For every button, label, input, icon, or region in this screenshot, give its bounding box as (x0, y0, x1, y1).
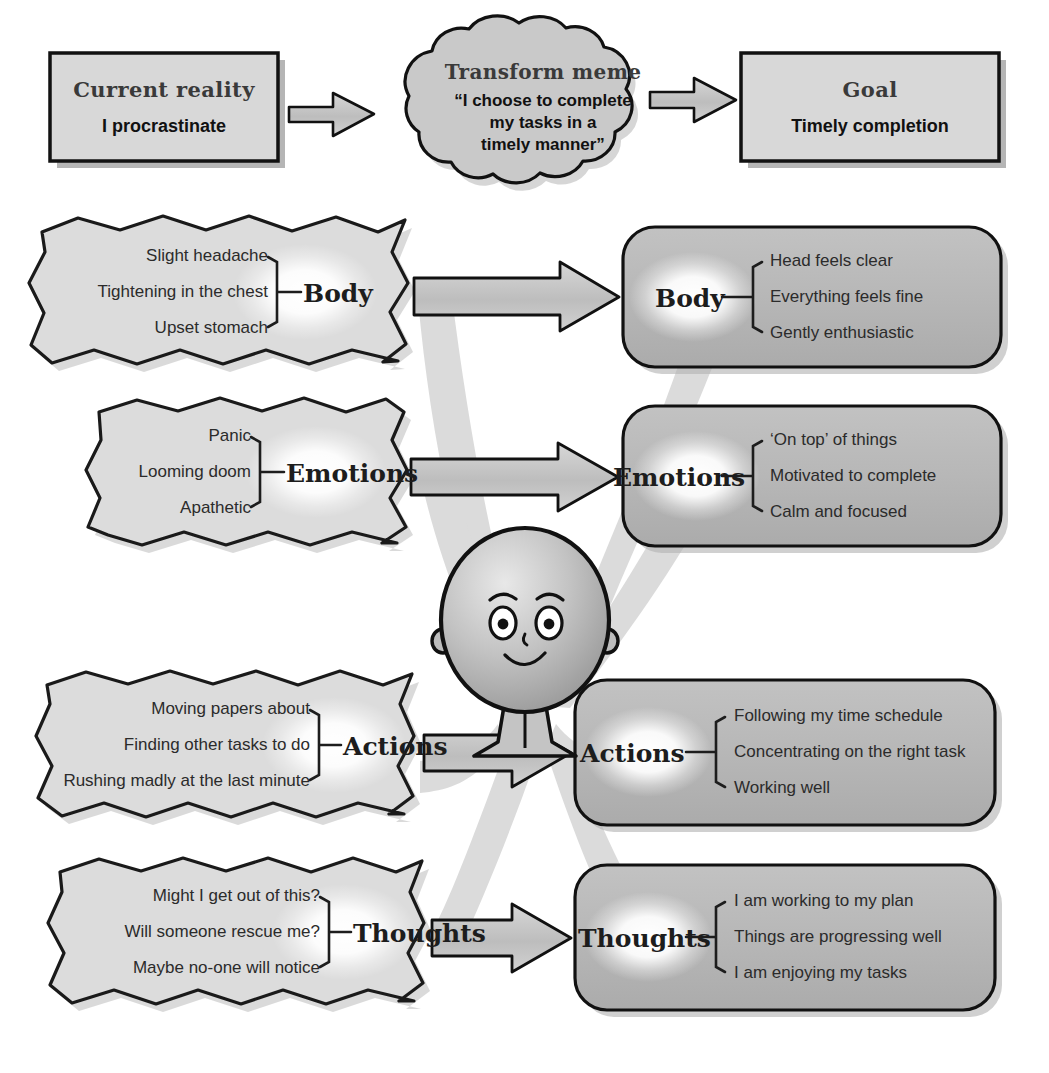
list-item: Motivated to complete (770, 466, 936, 486)
list-item: Maybe no-one will notice (133, 958, 320, 978)
after-thoughts-category: Thoughts (578, 924, 711, 953)
list-item: I am enjoying my tasks (734, 963, 907, 983)
goal-text: Goal Timely completion (741, 53, 999, 161)
transform-meme-quote-line1: “I choose to complete (454, 90, 632, 112)
goal-value: Timely completion (791, 116, 949, 137)
list-item: Following my time schedule (734, 706, 943, 726)
list-item: Everything feels fine (770, 287, 923, 307)
before-emotions-items: Panic Looming doom Apathetic (110, 426, 251, 518)
list-item: Upset stomach (155, 318, 268, 338)
list-item: I am working to my plan (734, 891, 914, 911)
transform-meme-quote-line3: timely manner” (481, 134, 605, 156)
transform-meme-quote-line2: my tasks in a (490, 112, 597, 134)
before-body-items: Slight headache Tightening in the chest … (80, 246, 268, 338)
arrow-current-to-meme (289, 93, 374, 136)
list-item: Working well (734, 778, 830, 798)
list-item: Concentrating on the right task (734, 742, 966, 762)
diagram-canvas: Current reality I procrastinate Transfor… (0, 0, 1049, 1073)
list-item: Might I get out of this? (153, 886, 320, 906)
list-item: Things are progressing well (734, 927, 942, 947)
after-body-category: Body (655, 284, 725, 313)
list-item: Head feels clear (770, 251, 893, 271)
list-item: Rushing madly at the last minute (63, 771, 310, 791)
after-actions-category: Actions (580, 739, 685, 768)
list-item: Looming doom (139, 462, 251, 482)
before-body-category: Body (303, 279, 373, 308)
after-actions-items: Following my time schedule Concentrating… (734, 706, 1000, 798)
current-reality-value: I procrastinate (102, 116, 226, 137)
before-actions-items: Moving papers about Finding other tasks … (58, 699, 310, 791)
transform-meme-text: Transform meme “I choose to complete my … (409, 52, 677, 182)
after-emotions-items: ‘On top’ of things Motivated to complete… (770, 430, 1002, 522)
current-reality-label: Current reality (73, 77, 255, 102)
before-actions-category: Actions (343, 732, 448, 761)
transform-meme-label: Transform meme (445, 60, 642, 84)
list-item: ‘On top’ of things (770, 430, 897, 450)
before-thoughts-category: Thoughts (353, 919, 486, 948)
list-item: Gently enthusiastic (770, 323, 914, 343)
list-item: Calm and focused (770, 502, 907, 522)
list-item: Tightening in the chest (98, 282, 268, 302)
list-item: Moving papers about (151, 699, 310, 719)
list-item: Finding other tasks to do (124, 735, 310, 755)
list-item: Will someone rescue me? (124, 922, 320, 942)
after-thoughts-items: I am working to my plan Things are progr… (734, 891, 984, 983)
list-item: Slight headache (146, 246, 268, 266)
list-item: Apathetic (180, 498, 251, 518)
before-thoughts-items: Might I get out of this? Will someone re… (100, 886, 320, 978)
after-emotions-category: Emotions (613, 463, 745, 492)
goal-label: Goal (842, 77, 897, 102)
after-body-items: Head feels clear Everything feels fine G… (770, 251, 995, 343)
list-item: Panic (208, 426, 251, 446)
current-reality-text: Current reality I procrastinate (50, 53, 278, 161)
before-emotions-category: Emotions (286, 459, 418, 488)
